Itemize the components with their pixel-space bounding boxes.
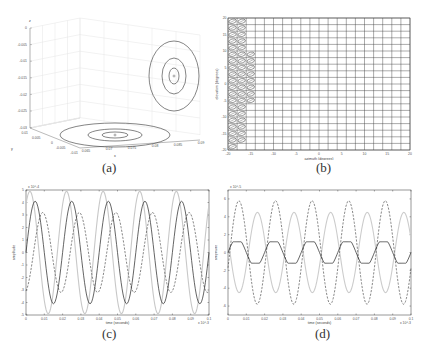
- svg-text:0.07: 0.07: [151, 317, 158, 321]
- panel-c-caption: (c): [102, 326, 116, 342]
- svg-text:0.06: 0.06: [132, 317, 139, 321]
- svg-text:0: 0: [51, 141, 53, 145]
- svg-text:5: 5: [341, 152, 343, 156]
- svg-text:2: 2: [224, 233, 226, 237]
- svg-text:-10: -10: [222, 115, 227, 119]
- svg-text:0: 0: [22, 251, 24, 255]
- svg-text:0.06: 0.06: [334, 317, 341, 321]
- svg-text:0: 0: [318, 152, 320, 156]
- svg-text:-1: -1: [21, 263, 24, 267]
- svg-text:0.04: 0.04: [298, 317, 305, 321]
- svg-text:x 10^-3: x 10^-3: [198, 321, 209, 325]
- svg-text:15: 15: [223, 33, 227, 37]
- svg-text:20: 20: [408, 152, 412, 156]
- svg-text:0.08: 0.08: [169, 317, 176, 321]
- svg-text:-0.015: -0.015: [17, 76, 27, 80]
- panel-b: -20-15-10-505101520-20-15-10-505101520az…: [215, 0, 430, 175]
- svg-text:0.09: 0.09: [187, 317, 194, 321]
- panel-b-caption: (b): [316, 160, 331, 176]
- panel-b-plot: -20-15-10-505101520-20-15-10-505101520az…: [215, 0, 430, 160]
- svg-text:15: 15: [385, 152, 389, 156]
- svg-text:0.03: 0.03: [78, 317, 85, 321]
- svg-text:0.09: 0.09: [198, 141, 205, 145]
- svg-text:y: y: [11, 147, 13, 151]
- svg-text:5: 5: [22, 188, 24, 192]
- svg-text:x 10^-4: x 10^-4: [28, 185, 39, 189]
- svg-text:0.005: 0.005: [32, 136, 41, 140]
- svg-text:-0.025: -0.025: [17, 109, 27, 113]
- svg-text:0.09: 0.09: [389, 317, 396, 321]
- svg-text:-5: -5: [223, 99, 226, 103]
- svg-text:-6: -6: [223, 304, 226, 308]
- svg-text:0.04: 0.04: [96, 317, 103, 321]
- svg-text:0: 0: [25, 317, 27, 321]
- panel-c-plot: 00.010.020.030.040.050.060.070.080.090.1…: [0, 178, 215, 328]
- svg-text:-2: -2: [21, 276, 24, 280]
- svg-text:1: 1: [22, 238, 24, 242]
- svg-text:-4: -4: [21, 301, 24, 305]
- svg-text:-0.01: -0.01: [70, 151, 78, 155]
- panel-a: 0-0.005-0.01-0.015-0.02-0.025-0.03z0.010…: [0, 0, 215, 175]
- svg-text:0.02: 0.02: [261, 317, 268, 321]
- panel-d-caption: (d): [315, 326, 330, 342]
- svg-text:0.065: 0.065: [82, 149, 91, 153]
- svg-text:-0.02: -0.02: [19, 93, 27, 97]
- svg-text:0.01: 0.01: [21, 131, 28, 135]
- svg-text:4: 4: [22, 201, 24, 205]
- svg-text:-10: -10: [271, 152, 276, 156]
- svg-text:10: 10: [363, 152, 367, 156]
- svg-text:0.01: 0.01: [41, 317, 48, 321]
- svg-text:time (seconds): time (seconds): [308, 321, 332, 325]
- svg-text:0: 0: [227, 317, 229, 321]
- svg-text:5: 5: [225, 66, 227, 70]
- panel-a-caption: (a): [102, 160, 116, 176]
- svg-text:amplitude: amplitude: [12, 245, 16, 261]
- svg-text:0.08: 0.08: [371, 317, 378, 321]
- svg-text:time (seconds): time (seconds): [106, 321, 130, 325]
- svg-text:-0.01: -0.01: [19, 59, 27, 63]
- svg-text:-5: -5: [21, 313, 24, 317]
- svg-text:-2: -2: [223, 269, 226, 273]
- svg-text:z: z: [29, 19, 31, 23]
- svg-text:0.03: 0.03: [280, 317, 287, 321]
- svg-text:-0.03: -0.03: [19, 126, 27, 130]
- svg-text:-4: -4: [223, 286, 226, 290]
- svg-text:elevation (degrees): elevation (degrees): [215, 69, 219, 100]
- svg-text:0.08: 0.08: [152, 144, 159, 148]
- panel-d: 00.010.020.030.040.050.060.070.080.090.1…: [215, 178, 430, 328]
- panel-a-plot: 0-0.005-0.01-0.015-0.02-0.025-0.03z0.010…: [0, 0, 215, 160]
- svg-text:-15: -15: [222, 132, 227, 136]
- svg-text:0.02: 0.02: [59, 317, 66, 321]
- svg-text:-3: -3: [21, 288, 24, 292]
- svg-text:6: 6: [224, 197, 226, 201]
- svg-text:4: 4: [224, 215, 226, 219]
- svg-text:20: 20: [223, 16, 227, 20]
- svg-text:10: 10: [223, 49, 227, 53]
- panel-d-plot: 00.010.020.030.040.050.060.070.080.090.1…: [215, 178, 430, 328]
- svg-text:-5: -5: [295, 152, 298, 156]
- svg-text:x: x: [114, 154, 116, 158]
- svg-text:0.07: 0.07: [353, 317, 360, 321]
- svg-text:x 10^-5: x 10^-5: [230, 185, 241, 189]
- panel-c: 00.010.020.030.040.050.060.070.080.090.1…: [0, 178, 215, 328]
- svg-text:0: 0: [25, 26, 27, 30]
- svg-text:-15: -15: [248, 152, 253, 156]
- svg-text:0: 0: [224, 251, 226, 255]
- svg-text:-20: -20: [226, 152, 231, 156]
- svg-text:0.01: 0.01: [243, 317, 250, 321]
- svg-text:-0.005: -0.005: [17, 43, 27, 47]
- svg-text:0: 0: [225, 82, 227, 86]
- svg-text:x 10^-3: x 10^-3: [400, 321, 411, 325]
- svg-text:0.07: 0.07: [106, 147, 113, 151]
- svg-text:3: 3: [22, 213, 24, 217]
- svg-text:-20: -20: [222, 148, 227, 152]
- svg-text:-0.005: -0.005: [56, 146, 66, 150]
- svg-text:0.085: 0.085: [174, 143, 183, 147]
- svg-text:amplitude: amplitude: [215, 245, 218, 261]
- svg-text:2: 2: [22, 226, 24, 230]
